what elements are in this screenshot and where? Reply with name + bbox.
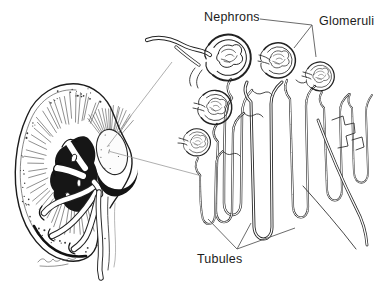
tubule-loops <box>196 79 372 239</box>
figure-canvas: Nephrons Glomeruli Tubules <box>0 0 375 282</box>
afferent-arteriole <box>147 38 210 88</box>
artist-signature <box>38 258 76 266</box>
ureter <box>98 192 115 278</box>
glomerulus-5 <box>183 129 210 156</box>
glomerulus-3 <box>303 60 336 93</box>
tubules-leader-lines <box>208 219 295 249</box>
label-nephrons: Nephrons <box>204 10 260 24</box>
tubule-loop-2 <box>214 113 244 222</box>
glomerulus-2 <box>259 41 297 79</box>
callout-line-upper <box>107 62 172 147</box>
label-tubules: Tubules <box>197 252 242 266</box>
kidney-illustration <box>15 84 138 278</box>
collecting-duct <box>303 120 367 249</box>
glomerulus-1 <box>202 32 254 84</box>
label-glomeruli: Glomeruli <box>319 14 374 28</box>
tubule-loop-6 <box>349 94 372 183</box>
kidney-nephron-figure: Nephrons Glomeruli Tubules <box>0 0 375 282</box>
nephron-detail <box>147 32 372 249</box>
glomeruli-leader-lines <box>294 25 316 57</box>
nephrons-leader-line <box>260 19 312 25</box>
